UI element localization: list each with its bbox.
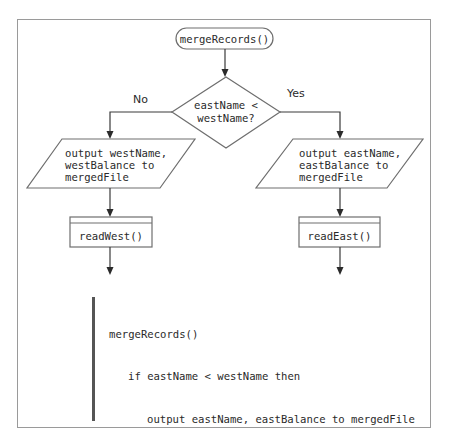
- decision-diamond: eastName < westName?: [172, 77, 280, 148]
- code-line: mergeRecords(): [109, 327, 415, 341]
- process-read-west: readWest(): [70, 217, 152, 247]
- arrow-down-icon: [337, 209, 344, 217]
- connector-yes-branch: [280, 112, 340, 133]
- arrow-down-icon: [107, 209, 114, 217]
- output-west-parallelogram: output westName, westBalance to mergedFi…: [27, 139, 195, 188]
- code-line: if eastName < westName then: [109, 369, 415, 383]
- arrow-down-icon: [337, 131, 344, 139]
- code-margin-bar: [92, 297, 95, 421]
- start-label: mergeRecords(): [180, 33, 269, 45]
- output-west-line-2: westBalance to: [65, 159, 154, 171]
- code-line: output eastName, eastBalance to mergedFi…: [109, 412, 415, 426]
- output-east-line-2: eastBalance to: [299, 159, 388, 171]
- output-west-line-3: mergedFile: [65, 171, 129, 183]
- output-west-line-1: output westName,: [65, 147, 167, 159]
- connector-no-branch: [110, 112, 172, 133]
- process-west-label: readWest(): [79, 230, 143, 242]
- arrow-down-icon: [222, 69, 229, 77]
- process-east-label: readEast(): [308, 230, 372, 242]
- start-terminal: mergeRecords(): [176, 28, 273, 49]
- output-east-parallelogram: output eastName, eastBalance to mergedFi…: [256, 139, 423, 188]
- output-east-line-1: output eastName,: [299, 147, 401, 159]
- arrow-down-icon: [107, 267, 114, 275]
- branch-yes-label: Yes: [286, 87, 305, 100]
- arrow-down-icon: [107, 131, 114, 139]
- decision-line-2: westName?: [197, 112, 254, 124]
- output-east-line-3: mergedFile: [299, 171, 363, 183]
- arrow-down-icon: [337, 267, 344, 275]
- pseudocode-block: mergeRecords() if eastName < westName th…: [109, 298, 415, 443]
- branch-no-label: No: [133, 93, 148, 106]
- process-read-east: readEast(): [299, 217, 380, 247]
- decision-line-1: eastName <: [194, 99, 258, 111]
